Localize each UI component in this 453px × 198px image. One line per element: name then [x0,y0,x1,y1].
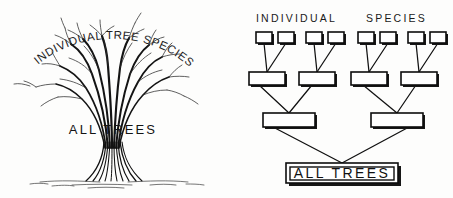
hierarchy-diagram-panel: INDIVIDUAL SPECIES [226,0,453,198]
node-species-4[interactable] [328,32,346,45]
node-species-6[interactable] [380,32,398,45]
connectors-genus-to-family [259,85,416,113]
header-individual: INDIVIDUAL [256,12,337,24]
node-family-1[interactable] [263,113,317,129]
tree-ground [30,181,204,188]
family-row [263,113,425,129]
node-genus-2[interactable] [299,72,337,87]
node-root-all-trees[interactable]: ALL TREES [286,163,401,186]
node-genus-3[interactable] [351,72,389,87]
tree-arc-title-text: INDIVIDUAL TREE SPECIES [32,29,197,69]
node-family-2[interactable] [371,113,425,129]
tree-illustration-panel: INDIVIDUAL TREE SPECIES [0,0,226,198]
header-species: SPECIES [366,12,427,24]
node-genus-4[interactable] [401,72,439,87]
node-species-5[interactable] [358,32,376,45]
node-species-8[interactable] [430,32,448,45]
hierarchy-diagram-svg: INDIVIDUAL SPECIES [226,0,453,198]
tree-arc-title: INDIVIDUAL TREE SPECIES [32,29,197,69]
connectors-species-to-genus [264,43,438,72]
root-label: ALL TREES [294,165,390,181]
node-species-3[interactable] [306,32,324,45]
tree-trunk [86,142,142,181]
node-species-7[interactable] [408,32,426,45]
figure-root: INDIVIDUAL TREE SPECIES [0,0,453,198]
genus-row [249,72,439,87]
species-row [256,32,448,45]
node-species-1[interactable] [256,32,274,45]
tree-illustration-svg: INDIVIDUAL TREE SPECIES [0,0,226,198]
connectors-family-to-root [273,127,409,163]
node-genus-1[interactable] [249,72,287,87]
tree-base-label: ALL TREES [69,122,157,137]
node-species-2[interactable] [278,32,296,45]
